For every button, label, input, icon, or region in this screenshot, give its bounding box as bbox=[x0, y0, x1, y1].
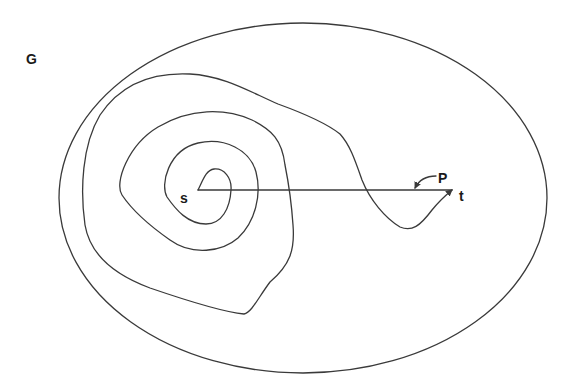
path-label-P: P bbox=[438, 170, 447, 186]
source-label-s: s bbox=[180, 190, 188, 206]
region-ellipse bbox=[59, 23, 547, 373]
path-P-pointer bbox=[415, 176, 436, 188]
target-label-t: t bbox=[459, 188, 464, 204]
graph-label-G: G bbox=[26, 51, 37, 67]
spiral-path bbox=[83, 74, 452, 314]
diagram-canvas: G s t P bbox=[0, 0, 569, 385]
